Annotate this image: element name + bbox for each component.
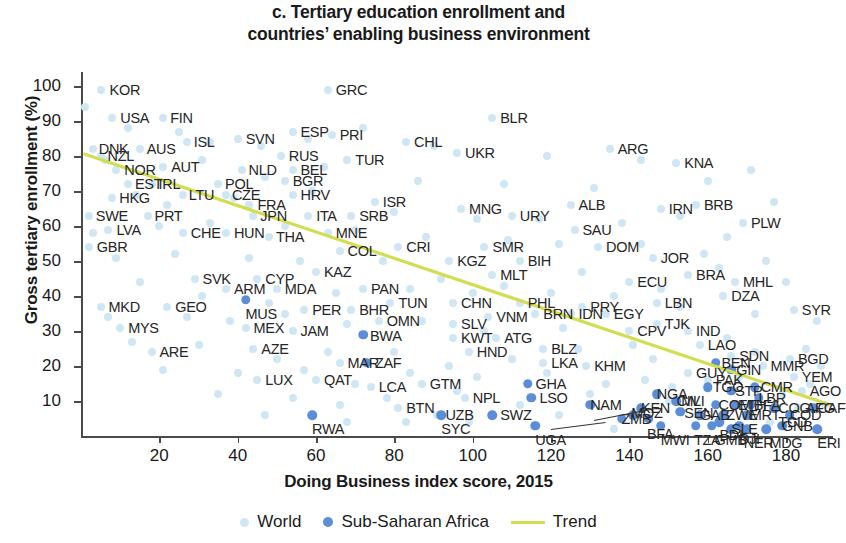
y-tick — [74, 226, 81, 228]
legend-item-trend[interactable]: Trend — [511, 512, 597, 532]
y-tick-label: 60 — [42, 216, 61, 236]
chart-title-line-1: c. Tertiary education enrollment and — [0, 2, 837, 24]
x-tick — [629, 436, 631, 443]
y-tick — [74, 331, 81, 333]
chart-legend: World Sub-Saharan Africa Trend — [0, 512, 837, 532]
y-tick — [74, 121, 81, 123]
y-tick-label: 50 — [42, 251, 61, 271]
x-tick — [238, 436, 240, 443]
plot-area: 102030405060708090100 204060801001201401… — [81, 72, 833, 436]
x-axis-label: Doing Business index score, 2015 — [0, 472, 837, 492]
trend-line — [81, 72, 833, 436]
legend-label-trend: Trend — [553, 512, 597, 532]
y-tick — [74, 191, 81, 193]
x-tick-label: 60 — [307, 446, 326, 466]
chart-title: c. Tertiary education enrollment and cou… — [0, 2, 837, 46]
y-tick-label: 10 — [42, 391, 61, 411]
x-tick-label: 20 — [150, 446, 169, 466]
y-tick — [74, 261, 81, 263]
x-tick — [316, 436, 318, 443]
y-tick-label: 30 — [42, 321, 61, 341]
y-tick — [74, 86, 81, 88]
x-tick-label: 100 — [458, 446, 486, 466]
legend-label-world: World — [257, 512, 301, 532]
legend-item-world[interactable]: World — [240, 512, 301, 532]
y-tick — [74, 401, 81, 403]
y-tick — [74, 366, 81, 368]
x-tick-label: 120 — [537, 446, 565, 466]
y-tick-label: 40 — [42, 286, 61, 306]
x-tick — [786, 436, 788, 443]
y-tick-label: 80 — [42, 146, 61, 166]
x-tick-label: 80 — [385, 446, 404, 466]
legend-item-sub-saharan-africa[interactable]: Sub-Saharan Africa — [323, 512, 488, 532]
x-tick — [159, 436, 161, 443]
y-tick-label: 90 — [42, 111, 61, 131]
x-tick — [551, 436, 553, 443]
x-axis-line — [81, 436, 833, 438]
legend-label-sub-saharan-africa: Sub-Saharan Africa — [341, 512, 488, 532]
x-tick — [473, 436, 475, 443]
y-tick — [74, 156, 81, 158]
y-tick — [74, 296, 81, 298]
chart-title-line-2: countries’ enabling business environment — [0, 24, 837, 46]
x-tick — [394, 436, 396, 443]
x-tick-label: 160 — [693, 446, 721, 466]
sub-saharan-africa-marker-icon — [323, 517, 333, 527]
x-tick — [708, 436, 710, 443]
x-tick-label: 180 — [772, 446, 800, 466]
world-marker-icon — [240, 518, 249, 527]
y-tick-label: 70 — [42, 181, 61, 201]
trend-line-icon — [511, 521, 545, 524]
y-tick-label: 100 — [33, 76, 61, 96]
x-tick-label: 40 — [228, 446, 247, 466]
x-tick-label: 140 — [615, 446, 643, 466]
y-tick-label: 20 — [42, 356, 61, 376]
